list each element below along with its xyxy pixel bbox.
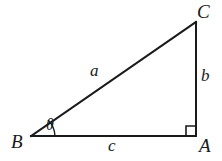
side-a-line [31,22,196,136]
vertex-label-b: B [11,132,23,151]
side-label-c: c [108,137,116,154]
vertex-label-c: C [197,2,210,21]
side-label-b: b [201,67,210,84]
triangle-diagram: C A B a b c θ [0,0,222,161]
right-angle-marker-icon [186,126,196,136]
vertex-label-a: A [199,136,211,155]
side-label-a: a [90,62,99,79]
angle-label-theta: θ [46,117,54,133]
